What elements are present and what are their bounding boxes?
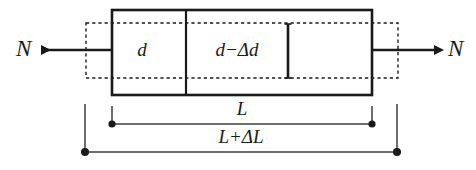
tension-bar-diagram: N N d d−Δd L L+ΔL [0, 0, 476, 170]
dim-upper-dot-right [368, 120, 375, 127]
force-label-left: N [15, 36, 33, 61]
diameter-original-label: d [137, 39, 147, 60]
diagram-canvas: N N d d−Δd L L+ΔL [0, 0, 476, 170]
length-extended-label: L+ΔL [217, 126, 263, 147]
force-label-right: N [447, 36, 465, 61]
dim-lower-dot-left [81, 148, 89, 156]
dim-upper-dot-left [108, 120, 115, 127]
length-original-label: L [236, 98, 248, 119]
dim-lower-dot-right [393, 148, 401, 156]
diameter-contracted-label: d−Δd [216, 39, 259, 60]
